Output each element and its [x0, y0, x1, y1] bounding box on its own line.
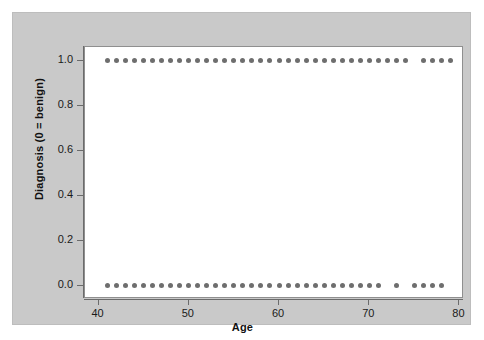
data-point — [304, 58, 309, 63]
data-point — [141, 283, 146, 288]
data-point — [313, 58, 318, 63]
figure-panel: 0.00.20.40.60.81.0 4050607080 Age Diagno… — [12, 12, 471, 325]
y-axis-tick-label: 0.4 — [58, 188, 73, 201]
data-point — [304, 283, 309, 288]
x-axis-title: Age — [13, 321, 472, 333]
data-point — [331, 58, 336, 63]
y-axis-tick: 0.6 — [77, 150, 83, 151]
data-point — [430, 58, 435, 63]
data-point — [385, 58, 390, 63]
data-point — [132, 58, 137, 63]
data-point — [286, 58, 291, 63]
data-point — [403, 58, 408, 63]
data-point — [177, 283, 182, 288]
data-point — [286, 283, 291, 288]
data-point — [195, 283, 200, 288]
x-axis-tick-label: 60 — [272, 307, 284, 320]
data-point — [313, 283, 318, 288]
data-point — [421, 283, 426, 288]
data-point — [168, 58, 173, 63]
data-point — [322, 58, 327, 63]
x-axis-tick — [188, 299, 189, 305]
data-point — [231, 58, 236, 63]
x-axis-tick-label: 50 — [182, 307, 194, 320]
data-point — [322, 283, 327, 288]
data-point — [186, 283, 191, 288]
data-point — [105, 283, 110, 288]
data-point — [249, 283, 254, 288]
y-axis-tick-label: 0.8 — [58, 98, 73, 111]
x-axis-tick — [98, 299, 99, 305]
data-point — [267, 283, 272, 288]
y-axis-tick: 0.8 — [77, 105, 83, 106]
data-point — [222, 283, 227, 288]
data-point — [367, 283, 372, 288]
data-point — [240, 283, 245, 288]
data-point — [340, 58, 345, 63]
data-point — [150, 283, 155, 288]
data-point — [159, 283, 164, 288]
x-axis-line — [84, 299, 463, 300]
data-point — [349, 283, 354, 288]
data-point — [231, 283, 236, 288]
y-axis-tick-label: 1.0 — [58, 53, 73, 66]
x-axis-tick-label: 70 — [362, 307, 374, 320]
y-axis-title: Diagnosis (0 = benign) — [33, 29, 45, 249]
y-axis-tick: 0.4 — [77, 195, 83, 196]
data-point — [204, 58, 209, 63]
x-axis-tick — [368, 299, 369, 305]
x-axis-tick-label: 80 — [452, 307, 464, 320]
plot-area — [84, 46, 463, 298]
data-point — [159, 58, 164, 63]
data-point — [376, 58, 381, 63]
data-point — [213, 58, 218, 63]
data-point — [277, 58, 282, 63]
data-point — [258, 58, 263, 63]
data-point — [295, 283, 300, 288]
data-point — [358, 283, 363, 288]
data-point — [277, 283, 282, 288]
y-axis-tick-label: 0.6 — [58, 143, 73, 156]
data-point — [421, 58, 426, 63]
data-point — [394, 58, 399, 63]
data-point — [240, 58, 245, 63]
data-point — [177, 58, 182, 63]
data-point — [222, 58, 227, 63]
data-point — [376, 283, 381, 288]
x-axis-tick-label: 40 — [91, 307, 103, 320]
data-point — [439, 58, 444, 63]
data-point — [412, 283, 417, 288]
y-axis-tick-label: 0.0 — [58, 278, 73, 291]
data-point — [394, 283, 399, 288]
data-point — [204, 283, 209, 288]
data-point — [295, 58, 300, 63]
y-axis-line — [83, 46, 84, 298]
data-point — [267, 58, 272, 63]
data-point — [258, 283, 263, 288]
data-point — [114, 58, 119, 63]
y-axis-tick-label: 0.2 — [58, 233, 73, 246]
y-axis-tick: 0.0 — [77, 285, 83, 286]
data-point — [105, 58, 110, 63]
data-point — [439, 283, 444, 288]
y-axis-tick: 0.2 — [77, 240, 83, 241]
data-point — [340, 283, 345, 288]
screenshot-root: 0.00.20.40.60.81.0 4050607080 Age Diagno… — [0, 0, 484, 340]
x-axis-tick — [458, 299, 459, 305]
data-point — [430, 283, 435, 288]
data-point — [349, 58, 354, 63]
data-point — [367, 58, 372, 63]
data-point — [331, 283, 336, 288]
data-point — [358, 58, 363, 63]
data-point — [448, 58, 453, 63]
data-point — [150, 58, 155, 63]
data-point — [195, 58, 200, 63]
y-axis-tick: 1.0 — [77, 60, 83, 61]
data-point — [249, 58, 254, 63]
x-axis-tick — [278, 299, 279, 305]
data-point — [114, 283, 119, 288]
data-point — [168, 283, 173, 288]
data-point — [141, 58, 146, 63]
data-point — [123, 283, 128, 288]
data-point — [123, 58, 128, 63]
